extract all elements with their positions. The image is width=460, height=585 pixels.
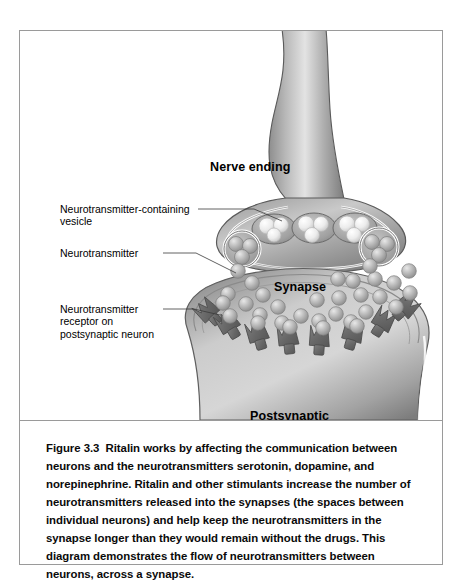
neurotransmitter-dot (389, 300, 404, 315)
callout-vesicle: Neurotransmitter-containing vesicle (60, 203, 190, 228)
neurotransmitter-dot (329, 307, 344, 322)
neurotransmitter-dot (283, 320, 298, 335)
callout-receptor-line1: Neurotransmitter (60, 303, 154, 315)
label-synapse: Synapse (274, 280, 326, 295)
neurotransmitter-dot (316, 321, 331, 336)
synapse-illustration: Nerve ending Synapse Postsynaptic neuron… (20, 31, 442, 420)
neurotransmitter-dot (346, 274, 361, 289)
neurotransmitter-dot (373, 290, 388, 305)
neurotransmitter-dot (363, 259, 378, 274)
neurotransmitter-dot (245, 276, 260, 291)
callout-neurotransmitter: Neurotransmitter (60, 247, 138, 259)
label-nerve-ending: Nerve ending (210, 160, 290, 175)
caption-figure-number: 3.3 (84, 442, 100, 454)
neurotransmitter-dot (271, 300, 286, 315)
neurotransmitter-dot (239, 297, 254, 312)
neurotransmitter-dot (256, 288, 271, 303)
figure-caption-panel: Figure 3.3 Ritalin works by affecting th… (20, 421, 442, 565)
callout-vesicle-line2: vesicle (60, 215, 190, 227)
neurotransmitter-dot (402, 264, 417, 279)
vesicle-fusing-left (224, 231, 260, 267)
neurotransmitter-dot (294, 309, 309, 324)
neurotransmitter-dot (331, 272, 346, 287)
neurotransmitter-dot (354, 288, 369, 303)
neurotransmitter-dot (216, 296, 231, 311)
neurotransmitter-dot (350, 319, 365, 334)
callout-receptor: Neurotransmitter receptor on postsynapti… (60, 303, 154, 340)
callout-receptor-line3: postsynaptic neuron (60, 328, 154, 340)
callout-receptor-line2: receptor on (60, 315, 154, 327)
callout-vesicle-line1: Neurotransmitter-containing (60, 203, 190, 215)
label-postsynaptic-line1: Postsynaptic (250, 409, 329, 420)
label-postsynaptic-neuron: Postsynaptic neuron (250, 409, 329, 420)
neurotransmitter-dot (387, 276, 402, 291)
caption-figure-word: Figure (46, 442, 81, 454)
figure-page: Nerve ending Synapse Postsynaptic neuron… (0, 0, 460, 585)
neurotransmitter-dot (332, 291, 347, 306)
neurotransmitter-dot (251, 316, 266, 331)
vesicle (292, 213, 336, 243)
neurotransmitter-dot (310, 293, 325, 308)
neurotransmitter-dot (223, 309, 238, 324)
neurotransmitter-dot (368, 272, 383, 287)
caption-body-text: Ritalin works by affecting the communica… (46, 442, 410, 580)
figure-caption-text: Figure 3.3 Ritalin works by affecting th… (46, 439, 416, 583)
neurotransmitter-dot (359, 305, 374, 320)
neurotransmitter-dot (403, 286, 418, 301)
figure-frame: Nerve ending Synapse Postsynaptic neuron… (19, 30, 443, 565)
